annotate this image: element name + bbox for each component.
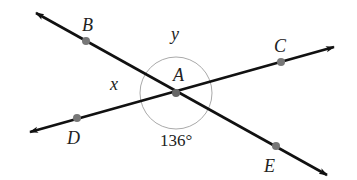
point-C — [277, 58, 285, 66]
label-A: A — [172, 65, 185, 85]
point-A — [172, 89, 180, 97]
point-D — [73, 114, 81, 122]
label-C: C — [274, 36, 287, 56]
label-D: D — [66, 128, 80, 148]
point-B — [82, 37, 90, 45]
angle-label-x: x — [109, 74, 118, 94]
angle-label-y: y — [169, 24, 179, 44]
angle-label-136: 136° — [160, 131, 192, 150]
label-B: B — [82, 15, 93, 35]
angle-diagram: B C D E A y x 136° — [0, 0, 357, 180]
label-E: E — [263, 156, 275, 176]
point-E — [272, 142, 280, 150]
